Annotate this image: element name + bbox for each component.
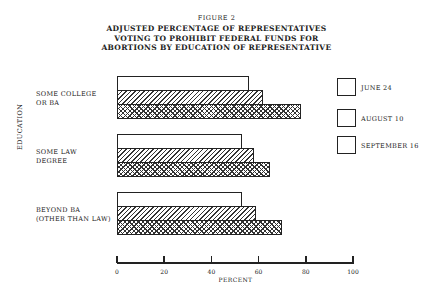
x-tick [305, 256, 307, 263]
x-tick [211, 256, 213, 263]
x-axis-label: PERCENT [117, 276, 354, 283]
legend-swatch-august [337, 109, 356, 127]
x-tick [163, 256, 165, 263]
figure-number: FIGURE 2 [0, 14, 433, 22]
x-tick [258, 256, 260, 263]
bar-september-16-group-3 [117, 220, 282, 235]
category-label-some-law: SOME LAW DEGREE [36, 148, 77, 166]
x-tick-label: 0 [115, 268, 119, 275]
bar-august-10-group-2 [117, 148, 254, 163]
legend-label-september: SEPTEMBER 16 [361, 142, 419, 150]
x-tick-label: 40 [208, 268, 216, 275]
x-tick-label: 60 [255, 268, 263, 275]
bar-september-16-group-1 [117, 104, 301, 119]
x-tick-label: 80 [302, 268, 310, 275]
bar-august-10-group-3 [117, 206, 256, 221]
title-line-3: ABORTIONS BY EDUCATION OF REPRESENTATIVE [0, 43, 433, 53]
bar-september-16-group-2 [117, 162, 270, 177]
legend-swatch-september [337, 136, 356, 154]
chart-title: ADJUSTED PERCENTAGE OF REPRESENTATIVES V… [0, 24, 433, 53]
title-line-1: ADJUSTED PERCENTAGE OF REPRESENTATIVES [0, 24, 433, 34]
category-label-beyond-ba: BEYOND BA (OTHER THAN LAW) [36, 206, 111, 224]
x-tick [352, 256, 354, 263]
title-line-2: VOTING TO PROHIBIT FEDERAL FUNDS FOR [0, 34, 433, 44]
bar-august-10-group-1 [117, 90, 263, 105]
bar-june-24-group-1 [117, 76, 249, 91]
x-axis-line [117, 262, 354, 264]
bar-june-24-group-3 [117, 192, 242, 207]
y-axis-label: EDUCATION [16, 104, 24, 150]
x-tick-label: 20 [160, 268, 168, 275]
legend-label-june: JUNE 24 [361, 84, 392, 92]
bar-june-24-group-2 [117, 134, 242, 149]
x-tick [116, 256, 118, 263]
legend-swatch-june [337, 78, 356, 96]
legend-label-august: AUGUST 10 [361, 115, 404, 123]
x-tick-label: 100 [347, 268, 358, 275]
category-label-some-college: SOME COLLEGE OR BA [36, 90, 96, 108]
